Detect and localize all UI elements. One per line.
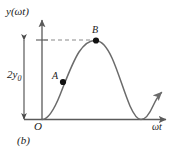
amplitude-label-main: 2y bbox=[7, 68, 17, 80]
point-marker-b bbox=[93, 37, 99, 43]
point-label-b: B bbox=[92, 25, 98, 35]
x-axis-label: ωt bbox=[152, 122, 162, 132]
point-marker-a bbox=[60, 79, 66, 85]
point-label-a: A bbox=[52, 71, 58, 81]
figure-caption: (b) bbox=[17, 135, 30, 146]
amplitude-label-subscript: 0 bbox=[17, 74, 21, 83]
figure-panel-b: y(ωt) ωt O 2y0 A B (b) bbox=[0, 0, 178, 155]
origin-label: O bbox=[34, 121, 42, 132]
amplitude-label: 2y0 bbox=[7, 69, 21, 83]
y-axis-label: y(ωt) bbox=[6, 6, 29, 17]
sinusoid-curve bbox=[42, 40, 162, 119]
